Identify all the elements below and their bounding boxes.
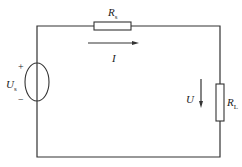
voltage-label: U	[186, 93, 195, 105]
voltage-arrow: U	[186, 79, 203, 108]
circuit-wires	[37, 26, 220, 157]
bottom-wire	[37, 101, 220, 157]
current-label: I	[111, 52, 117, 64]
series-resistor: Rs	[94, 6, 131, 30]
series-resistor-body	[94, 22, 131, 30]
load-resistor-label: RL	[226, 96, 238, 111]
source-label: Us	[6, 78, 17, 93]
top-wire	[37, 26, 94, 63]
load-resistor: RL	[216, 84, 238, 121]
voltage-source: + − Us	[6, 61, 49, 105]
current-arrow: I	[88, 41, 139, 64]
arrow-right-icon	[132, 41, 139, 45]
top-right-wire	[131, 26, 220, 84]
source-minus-sign: −	[18, 94, 24, 105]
arrow-down-icon	[199, 101, 203, 108]
source-plus-sign: +	[18, 61, 24, 72]
circuit-diagram: + − Us Rs I RL U	[0, 0, 242, 167]
series-resistor-label: Rs	[107, 6, 118, 21]
load-resistor-body	[216, 84, 224, 121]
